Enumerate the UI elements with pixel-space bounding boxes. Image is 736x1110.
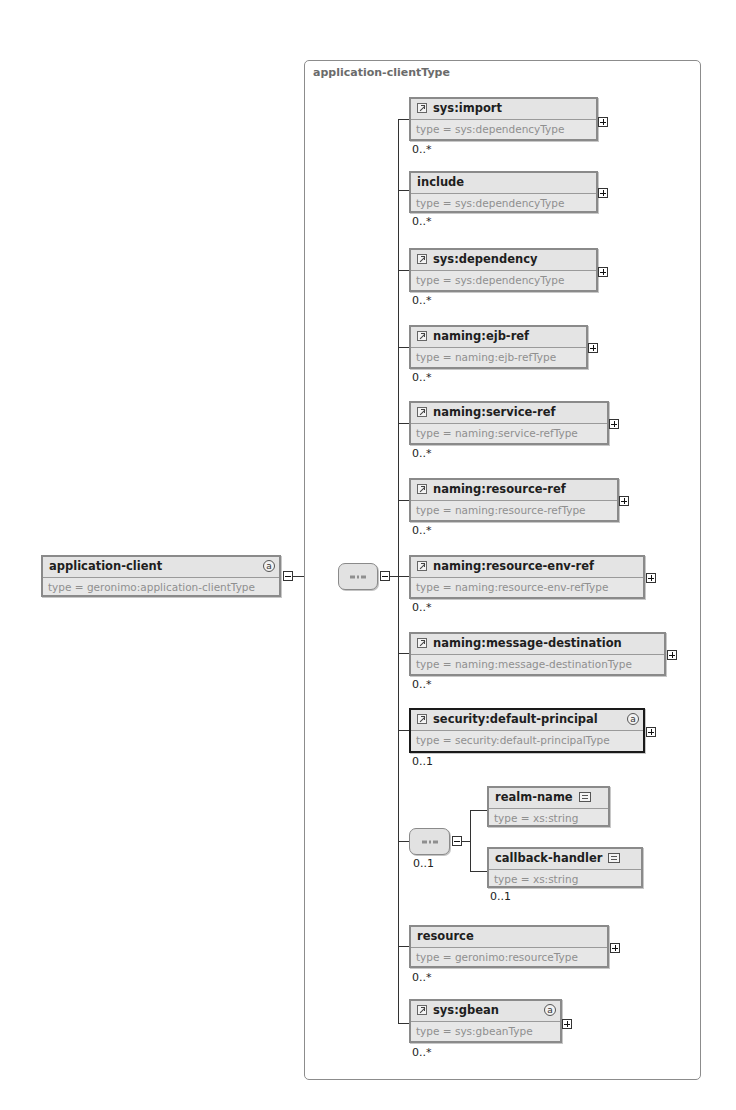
element-naming-message-destination[interactable]: naming:message-destination type = naming… [409,632,666,676]
element-header: naming:resource-env-ref [411,557,643,578]
element-header: include [411,173,596,194]
cardinality: 0..* [412,143,432,156]
element-sys-gbean[interactable]: sys:gbeana type = sys:gbeanType [409,999,562,1043]
element-name: realm-name [495,790,573,804]
connector-line [470,871,487,872]
element-header: sys:import [411,99,596,120]
sequence-icon [350,575,366,578]
connector-line [398,653,409,654]
element-resource[interactable]: resource type = geronimo:resourceType [409,925,609,968]
reference-arrow-icon [417,638,427,648]
element-name: sys:dependency [433,252,538,266]
element-header: callback-handler [489,849,641,870]
element-type: type = xs:string [489,809,608,828]
cardinality: 0..* [412,1046,432,1059]
expand-plus-icon[interactable] [646,573,656,583]
cardinality: 0..1 [413,857,434,870]
reference-arrow-icon [417,1005,427,1015]
simple-content-icon [579,792,591,802]
cardinality: 0..* [412,678,432,691]
expand-plus-icon[interactable] [610,943,620,953]
element-naming-service-ref[interactable]: naming:service-ref type = naming:service… [409,401,609,445]
element-name: naming:resource-env-ref [433,559,594,573]
complex-type-title: application-clientType [313,66,450,79]
reference-arrow-icon [417,103,427,113]
element-include[interactable]: include type = sys:dependencyType [409,171,598,213]
element-type: type = sys:gbeanType [411,1022,560,1041]
cardinality: 0..* [412,524,432,537]
collapse-minus-icon[interactable] [452,836,462,846]
cardinality: 0..1 [490,890,511,903]
reference-arrow-icon [417,254,427,264]
reference-arrow-icon [417,484,427,494]
element-type: type = geronimo:application-clientType [43,578,279,597]
element-naming-resource-env-ref[interactable]: naming:resource-env-ref type = naming:re… [409,555,645,599]
expand-plus-icon[interactable] [619,496,629,506]
connector-line [398,119,409,120]
element-header: sys:dependency [411,250,596,271]
element-header: naming:message-destination [411,634,664,655]
element-realm-name[interactable]: realm-name type = xs:string [487,786,610,827]
connector-line [462,841,470,842]
element-sys-dependency[interactable]: sys:dependency type = sys:dependencyType [409,248,598,292]
cardinality: 0..1 [412,755,433,768]
expand-plus-icon[interactable] [598,267,608,277]
connector-line [398,270,409,271]
element-naming-resource-ref[interactable]: naming:resource-ref type = naming:resour… [409,478,619,522]
expand-plus-icon[interactable] [609,419,619,429]
element-name: include [417,175,464,189]
element-header: naming:resource-ref [411,480,617,501]
element-header: realm-name [489,788,608,809]
element-type: type = xs:string [489,870,641,889]
attributes-icon: a [263,560,275,572]
expand-plus-icon[interactable] [562,1019,572,1029]
cardinality: 0..* [412,601,432,614]
collapse-minus-icon[interactable] [283,571,293,581]
nested-branch-line [470,810,471,871]
element-type: type = naming:resource-env-refType [411,578,643,597]
element-sys-import[interactable]: sys:import type = sys:dependencyType [409,97,598,141]
connector-line [398,576,409,577]
element-type: type = security:default-principalType [411,731,643,750]
connector-line [398,841,409,842]
element-header: resource [411,927,607,948]
expand-plus-icon[interactable] [588,343,598,353]
expand-plus-icon[interactable] [598,117,608,127]
connector-line [390,576,398,577]
reference-arrow-icon [417,561,427,571]
sequence-compositor[interactable] [338,563,378,590]
element-header: security:default-principala [411,710,643,731]
element-callback-handler[interactable]: callback-handler type = xs:string [487,847,643,888]
expand-plus-icon[interactable] [598,188,608,198]
sequence-branch-line [398,119,399,1023]
connector-line [398,500,409,501]
connector-line [398,347,409,348]
expand-plus-icon[interactable] [667,650,677,660]
element-name: naming:ejb-ref [433,329,529,343]
nested-sequence-compositor[interactable] [409,828,450,855]
cardinality: 0..* [412,447,432,460]
element-type: type = naming:ejb-refType [411,348,586,367]
attributes-icon: a [627,713,639,725]
sequence-icon [422,840,438,843]
element-type: type = naming:resource-refType [411,501,617,520]
element-name: sys:import [433,101,502,115]
element-type: type = sys:dependencyType [411,271,596,290]
element-security-default-principal[interactable]: security:default-principala type = secur… [409,708,645,753]
element-type: type = sys:dependencyType [411,194,596,213]
element-name: callback-handler [495,851,602,865]
reference-arrow-icon [417,407,427,417]
reference-arrow-icon [417,714,427,724]
element-name: sys:gbean [433,1003,499,1017]
collapse-minus-icon[interactable] [380,571,390,581]
connector-line [398,1023,409,1024]
element-name: naming:resource-ref [433,482,566,496]
element-name: application-client [49,559,162,573]
cardinality: 0..* [412,215,432,228]
element-name: naming:service-ref [433,405,556,419]
element-application-client[interactable]: application-client a type = geronimo:app… [41,555,281,597]
expand-plus-icon[interactable] [646,727,656,737]
element-naming-ejb-ref[interactable]: naming:ejb-ref type = naming:ejb-refType [409,325,588,369]
simple-content-icon [608,853,620,863]
element-name: naming:message-destination [433,636,622,650]
